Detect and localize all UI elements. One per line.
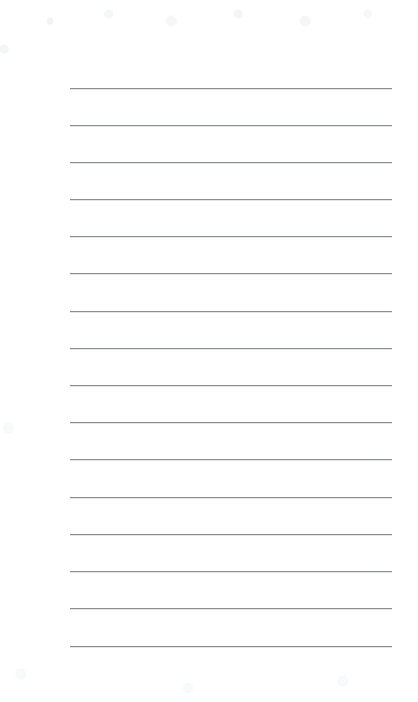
ruled-line [70,125,392,126]
lined-paper-page [0,0,418,702]
ruled-line [70,608,392,609]
ruled-line [70,497,392,498]
ruled-line [70,385,392,386]
ruled-line [70,646,392,647]
ruled-line [70,571,392,572]
ruled-line [70,199,392,200]
ruled-line [70,162,392,163]
ruled-line [70,273,392,274]
ruled-line [70,236,392,237]
ruled-line [70,348,392,349]
ruled-line [70,311,392,312]
ruled-line [70,88,392,89]
ruled-line [70,459,392,460]
paper-grain-texture [0,0,418,702]
ruled-line [70,534,392,535]
ruled-line [70,422,392,423]
